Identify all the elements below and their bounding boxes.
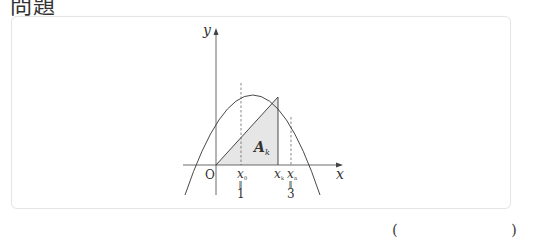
- y-axis-label: y: [202, 22, 212, 38]
- xn-value: 3: [287, 187, 295, 201]
- region-label-sub: k: [265, 148, 270, 157]
- answer-paren-open: (: [392, 221, 398, 239]
- answer-paren-close: ): [511, 221, 517, 239]
- x-axis-label: x: [336, 166, 344, 182]
- xn-label: x: [287, 167, 294, 181]
- region-label-a: A: [252, 139, 265, 155]
- x0-label: x: [237, 167, 244, 181]
- x0-value: 1: [237, 187, 245, 201]
- xk-label: x: [274, 167, 281, 181]
- xk-sub: k: [281, 175, 285, 181]
- y-axis-arrow-icon: [214, 28, 219, 35]
- x0-sub: 0: [244, 175, 247, 181]
- origin-label: O: [205, 168, 215, 182]
- parabola-diagram: y x O A k x 0 ‖ 1 x k x n ‖ 3: [0, 0, 535, 242]
- xn-sub: n: [294, 175, 298, 181]
